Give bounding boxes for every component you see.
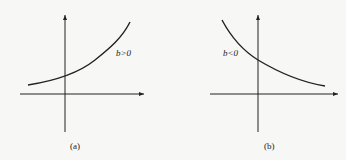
caption-b: (b) <box>264 141 275 151</box>
curve-a <box>28 22 130 85</box>
label-b: b<0 <box>223 48 239 58</box>
panel-a: b>0 (a) <box>20 15 144 151</box>
label-a: b>0 <box>116 48 132 58</box>
exponential-diagrams: b>0 (a) b<0 (b) <box>0 0 346 160</box>
panel-b: b<0 (b) <box>210 15 338 151</box>
caption-a: (a) <box>70 141 80 151</box>
